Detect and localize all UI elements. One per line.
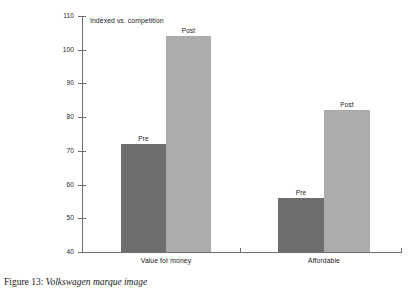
figure-volkswagen-marque-image: 405060708090100110 PrePostPrePost Indexe… (0, 0, 419, 295)
bar-label-post-affordable: Post (324, 101, 370, 109)
figure-caption: Figure 13: Volkswagen marque image (4, 276, 147, 288)
bar-post-value-for-money (166, 36, 211, 252)
bar-pre-affordable (278, 198, 324, 252)
figure-caption-number: Figure 13: (4, 277, 43, 287)
bars-layer (0, 0, 419, 252)
axis-note-label: Indexed vs. competition (90, 17, 164, 25)
x-axis-category-affordable: Affordable (278, 256, 370, 265)
x-axis-line (82, 252, 402, 253)
y-axis-tick (78, 252, 86, 253)
figure-caption-title: Volkswagen marque image (46, 277, 148, 287)
bar-post-affordable (324, 110, 370, 252)
bar-pre-value-for-money (121, 144, 166, 252)
bar-chart-plot-area: 405060708090100110 PrePostPrePost Indexe… (0, 0, 419, 266)
bar-label-pre-value-for-money: Pre (121, 135, 166, 143)
bar-label-post-value-for-money: Post (166, 27, 211, 35)
bar-label-pre-affordable: Pre (278, 189, 324, 197)
x-axis-category-value-for-money: Value for money (121, 256, 211, 265)
